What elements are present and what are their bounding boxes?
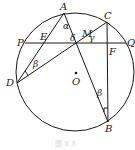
angle-gamma: γ bbox=[89, 33, 95, 43]
label-f: F bbox=[108, 46, 117, 57]
label-e: E bbox=[39, 31, 48, 42]
label-p: P bbox=[16, 37, 24, 48]
label-q: Q bbox=[127, 37, 135, 48]
label-o: O bbox=[72, 76, 80, 87]
angle-beta-d: β bbox=[32, 59, 38, 69]
center-dot bbox=[75, 72, 78, 75]
angle-beta-b: β bbox=[96, 88, 102, 98]
angle-alpha: α bbox=[63, 21, 69, 31]
geometry-figure: A C P Q E M F D B O α δ γ β β 图 X.X bbox=[0, 0, 135, 150]
angle-delta: δ bbox=[70, 33, 75, 43]
label-b: B bbox=[104, 123, 112, 134]
label-c: C bbox=[104, 10, 112, 21]
label-a: A bbox=[59, 1, 67, 12]
segment-cb bbox=[107, 22, 108, 122]
angle-arc-beta-d bbox=[25, 71, 28, 76]
label-d: D bbox=[5, 77, 14, 88]
segment-ad bbox=[17, 13, 64, 83]
figure-caption: 图 X.X bbox=[55, 140, 76, 148]
segment-dc bbox=[17, 22, 107, 83]
